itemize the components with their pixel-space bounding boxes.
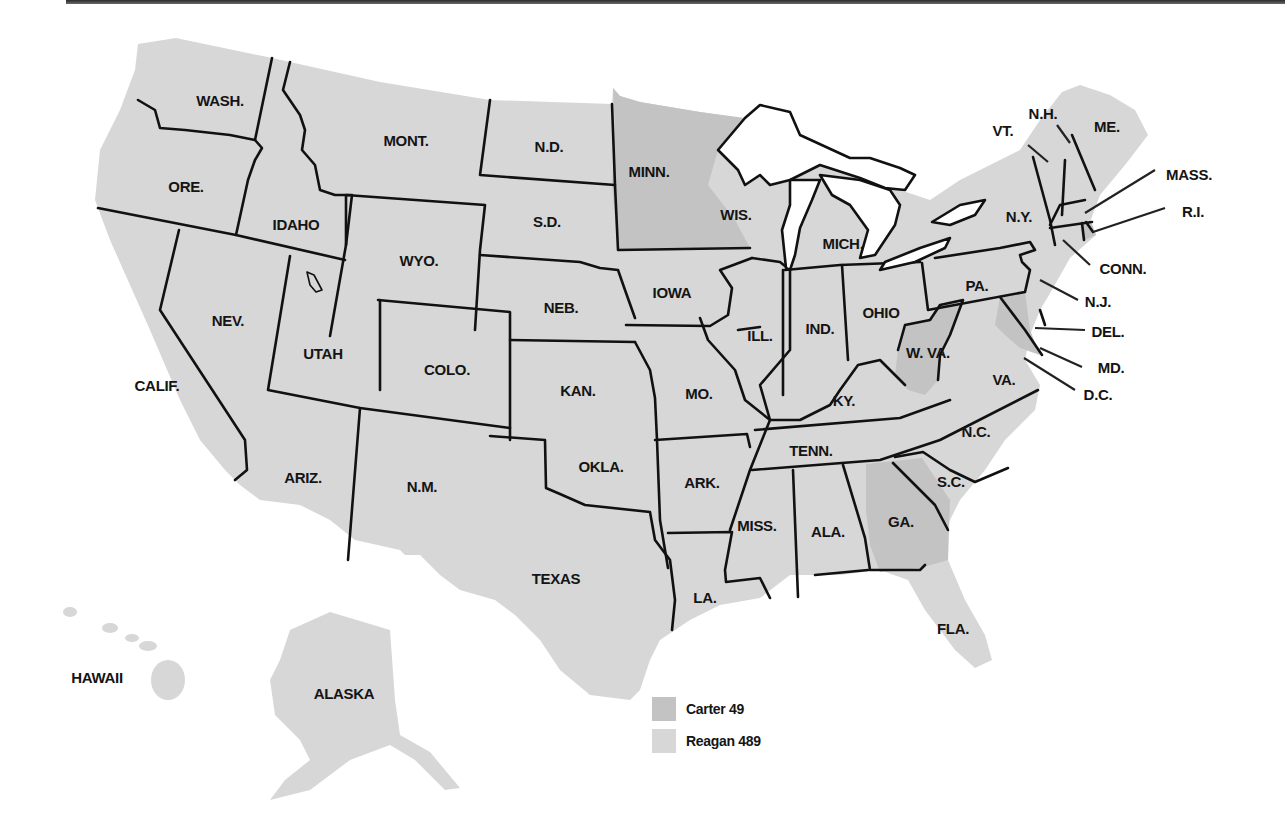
legend-item-reagan: Reagan 489	[652, 728, 761, 754]
state-label-ohio: OHIO	[862, 304, 899, 321]
state-label-kan: KAN.	[560, 382, 595, 399]
state-label-wyo: WYO.	[400, 252, 439, 269]
state-label-ariz: ARIZ.	[284, 469, 322, 486]
legend: Carter 49 Reagan 489	[652, 696, 761, 760]
state-label-nc: N.C.	[962, 423, 991, 440]
state-label-wis: WIS.	[720, 206, 751, 223]
state-label-va: VA.	[993, 371, 1016, 388]
state-label-ark: ARK.	[684, 474, 719, 491]
state-label-mass: MASS.	[1166, 166, 1212, 183]
state-label-alaska: ALASKA	[314, 685, 375, 702]
state-label-tenn: TENN.	[789, 442, 833, 459]
state-label-wash: WASH.	[196, 92, 244, 109]
state-label-nd: N.D.	[535, 138, 564, 155]
state-label-ill: ILL.	[747, 327, 772, 344]
land-hawaii	[63, 607, 185, 700]
state-label-nj: N.J.	[1085, 293, 1111, 310]
state-label-sd: S.D.	[533, 213, 561, 230]
state-label-ga: GA.	[888, 513, 914, 530]
state-label-dc: D.C.	[1084, 386, 1113, 403]
state-label-ore: ORE.	[168, 178, 203, 195]
state-label-vt: VT.	[993, 122, 1014, 139]
state-label-wva: W. VA.	[906, 344, 950, 361]
state-label-hawaii: HAWAII	[71, 669, 123, 686]
state-label-ky: KY.	[833, 392, 855, 409]
state-label-utah: UTAH	[303, 345, 342, 362]
state-label-texas: TEXAS	[532, 570, 581, 587]
state-label-md: MD.	[1098, 359, 1125, 376]
state-label-calif: CALIF.	[135, 377, 180, 394]
state-label-neb: NEB.	[544, 299, 579, 316]
state-label-del: DEL.	[1092, 323, 1125, 340]
state-label-pa: PA.	[966, 277, 989, 294]
state-label-ny: N.Y.	[1006, 208, 1032, 225]
state-label-ind: IND.	[806, 320, 835, 337]
state-label-okla: OKLA.	[578, 458, 623, 475]
legend-label-carter: Carter 49	[686, 701, 744, 717]
state-label-mo: MO.	[685, 385, 712, 402]
carter-swatch	[652, 697, 676, 721]
state-label-fla: FLA.	[937, 620, 969, 637]
state-label-minn: MINN.	[629, 163, 670, 180]
land-alaska	[270, 612, 460, 800]
state-label-ri: R.I.	[1182, 203, 1204, 220]
state-label-nh: N.H.	[1029, 105, 1058, 122]
legend-label-reagan: Reagan 489	[686, 733, 761, 749]
state-label-la: LA.	[693, 589, 716, 606]
state-label-colo: COLO.	[424, 361, 470, 378]
us-map	[0, 0, 1285, 829]
state-label-me: ME.	[1094, 118, 1120, 135]
state-label-conn: CONN.	[1100, 260, 1147, 277]
state-label-sc: S.C.	[937, 473, 965, 490]
legend-item-carter: Carter 49	[652, 696, 761, 722]
state-label-miss: MISS.	[737, 517, 776, 534]
reagan-swatch	[652, 729, 676, 753]
state-label-nm: N.M.	[407, 478, 437, 495]
state-label-nev: NEV.	[212, 312, 244, 329]
state-label-iowa: IOWA	[653, 284, 692, 301]
state-label-ala: ALA.	[811, 523, 845, 540]
state-label-mich: MICH.	[823, 235, 864, 252]
state-label-mont: MONT.	[383, 132, 428, 149]
state-label-idaho: IDAHO	[273, 216, 320, 233]
